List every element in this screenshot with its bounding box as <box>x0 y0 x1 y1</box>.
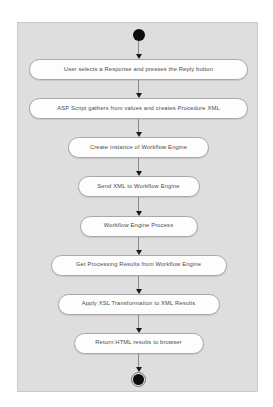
activity-node-2[interactable]: ASP Script gathers from values and creat… <box>29 98 248 119</box>
connector-1-to-2 <box>134 80 143 98</box>
connector-4-to-5 <box>134 197 143 215</box>
connector-line <box>138 237 139 250</box>
activity-label: Create instance of Workflow Engine <box>90 145 187 151</box>
activity-label: User selects a Response and presses the … <box>64 67 213 73</box>
connector-line <box>138 197 139 210</box>
activity-label: Workflow Engine Process <box>104 223 173 229</box>
activity-label: ASP Script gathers from values and creat… <box>57 106 220 112</box>
arrowhead-icon <box>136 211 142 216</box>
activity-node-4[interactable]: Send XML to Workflow Engine <box>78 176 200 197</box>
activity-label: Return HTML results to browser <box>95 340 181 346</box>
connector-5-to-6 <box>134 237 143 255</box>
connector-8-to-end <box>134 354 143 372</box>
activity-diagram-panel: User selects a Response and presses the … <box>17 22 258 392</box>
connector-line <box>138 41 139 54</box>
connector-6-to-7 <box>134 276 143 294</box>
connector-line <box>138 315 139 328</box>
diagram-canvas: User selects a Response and presses the … <box>0 0 273 407</box>
activity-label: Get Processing Results from Workflow Eng… <box>76 262 201 268</box>
connector-line <box>138 158 139 171</box>
connector-2-to-3 <box>134 119 143 137</box>
activity-flow: User selects a Response and presses the … <box>18 23 259 393</box>
activity-node-6[interactable]: Get Processing Results from Workflow Eng… <box>51 255 227 276</box>
activity-node-1[interactable]: User selects a Response and presses the … <box>29 59 248 80</box>
connector-start-to-1 <box>134 41 143 59</box>
arrowhead-icon <box>136 250 142 255</box>
connector-line <box>138 80 139 93</box>
activity-label: Apply XSL Transformation to XML Results <box>82 301 196 307</box>
activity-node-7[interactable]: Apply XSL Transformation to XML Results <box>58 294 220 315</box>
connector-7-to-8 <box>134 315 143 333</box>
activity-node-3[interactable]: Create instance of Workflow Engine <box>68 137 209 158</box>
connector-line <box>138 354 139 367</box>
final-node-core <box>133 374 144 385</box>
connector-line <box>138 276 139 289</box>
initial-node <box>133 29 145 41</box>
connector-line <box>138 119 139 132</box>
activity-node-8[interactable]: Return HTML results to browser <box>74 333 204 354</box>
final-node <box>131 372 146 387</box>
activity-label: Send XML to Workflow Engine <box>97 184 179 190</box>
activity-node-5[interactable]: Workflow Engine Process <box>80 216 198 237</box>
connector-3-to-4 <box>134 158 143 176</box>
